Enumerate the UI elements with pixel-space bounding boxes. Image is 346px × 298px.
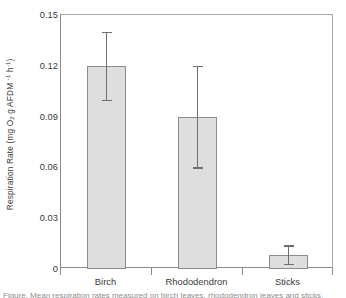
error-cap-sticks-upper (284, 245, 294, 246)
y-tick-label: 0.12 (24, 59, 58, 70)
y-tick-label: 0.06 (24, 161, 58, 172)
y-axis-tick-labels: 00.030.060.090.120.15 (20, 0, 58, 298)
x-tick-label-birch: Birch (95, 276, 116, 287)
y-axis-title-mid2: h (5, 67, 15, 74)
x-tick-mark (60, 268, 61, 275)
error-cap-rhododendron-upper (193, 66, 203, 67)
x-tick-label-sticks: Sticks (275, 276, 300, 287)
y-tick-label: 0 (24, 263, 58, 274)
x-axis-tick-marks (60, 268, 333, 276)
error-bar-rhododendron (197, 66, 198, 168)
y-axis-title-sub-oxygen: 2 (8, 116, 15, 120)
x-tick-mark (151, 268, 152, 275)
error-cap-sticks-lower (284, 264, 294, 265)
y-axis-title: Respiration Rate (mg O2 g AFDM -1 h-1) (0, 0, 20, 268)
error-cap-rhododendron-lower (193, 167, 203, 168)
bar-chart-figure: Respiration Rate (mg O2 g AFDM -1 h-1) 0… (0, 0, 346, 298)
y-tick-label: 0.03 (24, 212, 58, 223)
x-tick-mark (332, 268, 333, 275)
error-bar-birch (106, 32, 107, 100)
y-axis-title-text: Respiration Rate (mg O2 g AFDM -1 h-1) (5, 58, 16, 210)
plot-area (60, 14, 333, 268)
y-tick-label: 0.09 (24, 110, 58, 121)
error-cap-birch-lower (102, 100, 112, 101)
y-axis-title-mid: g AFDM (5, 80, 15, 116)
x-tick-label-rhododendron: Rhododendron (165, 276, 227, 287)
y-tick-label: 0.15 (24, 9, 58, 20)
x-axis-category-labels: BirchRhododendronSticks (60, 276, 333, 292)
y-axis-title-prefix: Respiration Rate (mg O (5, 119, 15, 209)
plot-surface (61, 15, 332, 267)
figure-caption-text: Figure. Mean respiration rates measured … (3, 292, 346, 298)
x-tick-mark (242, 268, 243, 275)
figure-caption-clipped: Figure. Mean respiration rates measured … (3, 292, 346, 298)
y-axis-title-suffix: ) (5, 58, 15, 61)
error-cap-birch-upper (102, 32, 112, 33)
error-bar-sticks (288, 245, 289, 264)
y-axis-title-sup-afdm: -1 (5, 74, 12, 80)
y-axis-title-sup-hour: -1 (5, 61, 12, 67)
